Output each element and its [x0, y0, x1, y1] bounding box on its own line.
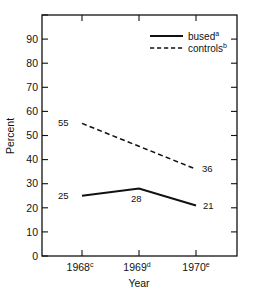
x-tick-1970-text: 1970 [182, 261, 206, 273]
y-tick-label-0: 0 [32, 250, 38, 262]
x-axis-tick-labels: 1968c 1969d 1970e [67, 261, 210, 273]
y-tick-label-50: 50 [26, 129, 38, 141]
x-tick-label-1968: 1968c [67, 261, 94, 273]
x-tick-label-1969: 1969d [123, 261, 150, 273]
x-tick-1969-text: 1969 [123, 261, 147, 273]
legend-label-bused: buseda [188, 30, 219, 42]
x-axis-ticks-top [82, 15, 196, 21]
legend-controls-superscript: b [223, 42, 227, 49]
y-tick-label-70: 70 [26, 81, 38, 93]
x-tick-1969-superscript: d [147, 261, 151, 268]
y-tick-label-80: 80 [26, 57, 38, 69]
data-label-bused-1968: 25 [58, 190, 69, 201]
data-label-bused-1969: 28 [131, 193, 142, 204]
y-tick-label-90: 90 [26, 33, 38, 45]
x-axis-title: Year [128, 277, 150, 289]
chart-figure: 90 80 70 60 50 40 30 20 10 0 Percent 196… [0, 0, 259, 304]
y-axis-ticks-left [42, 15, 48, 256]
y-axis-title: Percent [4, 118, 16, 154]
data-label-controls-1968: 55 [58, 117, 69, 128]
x-tick-label-1970: 1970e [182, 261, 209, 273]
y-axis-tick-labels: 90 80 70 60 50 40 30 20 10 0 [26, 33, 38, 262]
x-axis-ticks-bottom [82, 250, 196, 256]
x-tick-1970-superscript: e [206, 261, 210, 268]
series-line-controls [82, 123, 196, 169]
chart-legend: buseda controlsb [150, 30, 227, 54]
data-point-labels: 55 36 25 28 21 [58, 117, 214, 211]
legend-bused-text: bused [188, 31, 215, 42]
data-label-controls-1970: 36 [202, 163, 213, 174]
x-tick-1968-text: 1968 [67, 261, 91, 273]
data-label-bused-1970: 21 [203, 200, 214, 211]
x-tick-1968-superscript: c [90, 261, 94, 268]
y-tick-label-20: 20 [26, 202, 38, 214]
y-tick-label-40: 40 [26, 153, 38, 165]
legend-controls-text: controls [188, 43, 223, 54]
y-tick-label-10: 10 [26, 226, 38, 238]
y-tick-label-60: 60 [26, 105, 38, 117]
legend-bused-superscript: a [215, 30, 219, 37]
line-chart: 90 80 70 60 50 40 30 20 10 0 Percent 196… [0, 0, 259, 304]
y-axis-ticks-right [231, 39, 237, 232]
legend-label-controls: controlsb [188, 42, 227, 54]
y-tick-label-30: 30 [26, 177, 38, 189]
